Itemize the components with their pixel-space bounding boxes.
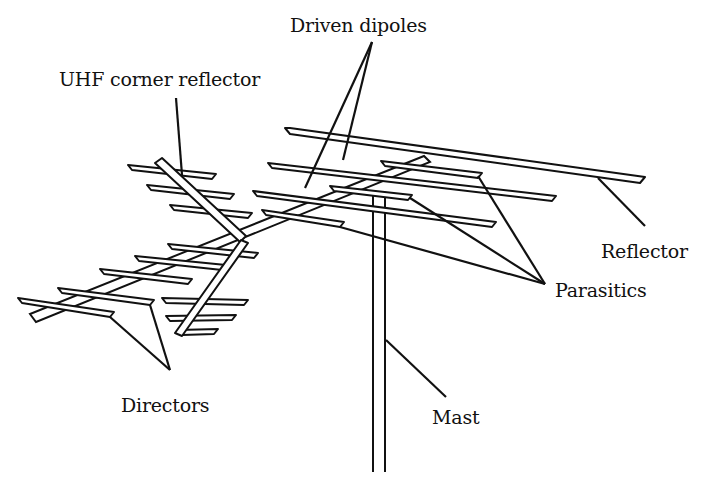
leader-lines [110, 42, 645, 397]
label-directors: Directors [121, 396, 209, 415]
label-driven-dipoles: Driven dipoles [290, 16, 427, 35]
label-uhf-corner-reflector: UHF corner reflector [59, 70, 260, 89]
label-reflector: Reflector [601, 242, 688, 261]
label-parasitics: Parasitics [555, 281, 647, 300]
label-mast: Mast [432, 408, 479, 427]
